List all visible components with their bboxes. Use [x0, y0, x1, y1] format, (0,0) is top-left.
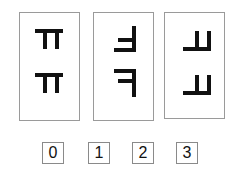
- answer-option-label: 1: [95, 144, 104, 162]
- answer-option-label: 3: [183, 144, 192, 162]
- upside-down-f-glyph-top: [114, 26, 138, 56]
- mirrored-f-glyph-bottom: [114, 69, 138, 99]
- figure-panel-1: [19, 12, 80, 121]
- answer-option-2[interactable]: 2: [132, 142, 154, 164]
- answer-option-label: 2: [139, 144, 148, 162]
- rotated-f-glyph-top: [183, 31, 213, 55]
- figure-panel-3: [164, 12, 225, 119]
- answer-option-0[interactable]: 0: [42, 142, 64, 164]
- answer-option-label: 0: [49, 144, 58, 162]
- answer-option-1[interactable]: 1: [88, 142, 110, 164]
- answer-option-3[interactable]: 3: [176, 142, 198, 164]
- rotated-f-glyph-top: [35, 29, 65, 53]
- rotated-f-glyph-bottom: [183, 75, 213, 99]
- rotated-f-glyph-bottom: [35, 73, 65, 97]
- figure-panel-2: [93, 12, 154, 121]
